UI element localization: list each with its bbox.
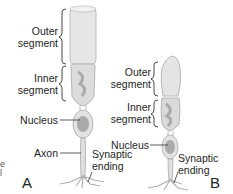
rod-axon-label: Axon <box>10 147 58 159</box>
cone-inner-segment-label: Inner segment <box>104 101 151 125</box>
cone-synaptic-ending-label: Synaptic ending <box>178 152 218 176</box>
cone-axon <box>168 159 173 180</box>
panel-label-a: A <box>22 174 32 191</box>
rod-nucleus <box>77 116 89 132</box>
cone-nucleus <box>165 140 175 154</box>
cone-inner-bracket <box>151 100 158 127</box>
cropped-edge-text: e l <box>0 160 5 178</box>
rod-axon <box>81 138 86 176</box>
rod-synaptic-ending <box>60 176 104 188</box>
rod-inner-bracket <box>59 66 66 101</box>
panel-label-b: B <box>210 174 220 191</box>
cone-inner-segment <box>161 98 180 131</box>
cone-outer-bracket <box>151 62 158 96</box>
cone-nucleus-label: Nucleus <box>100 139 149 151</box>
rod-synaptic-ending-label: Synaptic ending <box>92 148 132 172</box>
rod-outer-segment-label: Outer segment <box>14 25 58 49</box>
cone-synaptic-ending <box>148 180 188 190</box>
cone-outer-segment <box>161 56 180 96</box>
rod-outer-bracket <box>59 9 66 64</box>
rod-outer-segment <box>70 8 96 64</box>
rod-nucleus-label: Nucleus <box>10 114 58 126</box>
cone-outer-segment-label: Outer segment <box>104 66 151 90</box>
rod-synaptic-leader <box>88 172 92 182</box>
rod-inner-segment-label: Inner segment <box>14 72 58 96</box>
